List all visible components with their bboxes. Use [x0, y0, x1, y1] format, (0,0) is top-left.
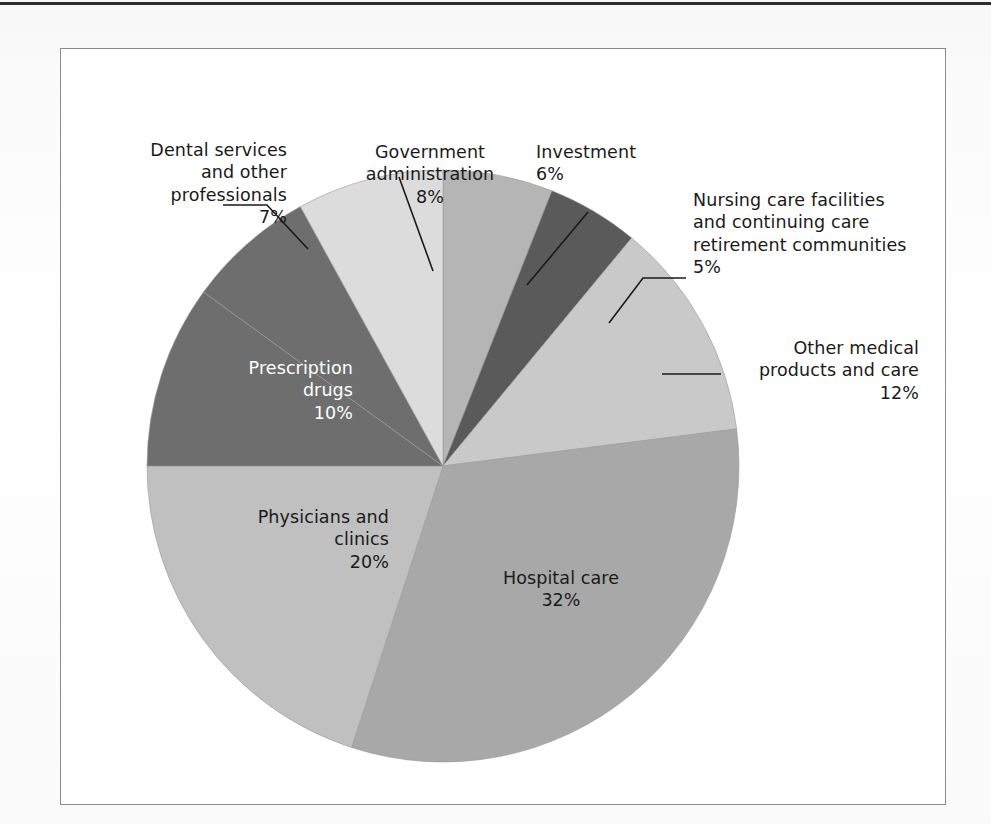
pie-slice-group	[147, 170, 739, 762]
pie-label-dental-services: Dental services and other professionals …	[69, 139, 287, 229]
page-top-rule	[0, 2, 991, 5]
pie-label-government-administration: Government administration 8%	[339, 141, 521, 208]
chart-frame: Government administration 8% Investment …	[60, 48, 946, 805]
pie-label-other-medical: Other medical products and care 12%	[663, 337, 919, 404]
pie-label-nursing-care: Nursing care facilities and continuing c…	[693, 189, 941, 279]
pie-label-prescription-drugs: Prescription drugs 10%	[171, 357, 353, 424]
pie-label-investment: Investment 6%	[536, 141, 706, 186]
figure-page: Government administration 8% Investment …	[0, 0, 991, 824]
pie-label-hospital-care: Hospital care 32%	[461, 567, 661, 612]
pie-label-physicians-clinics: Physicians and clinics 20%	[183, 506, 389, 573]
pie-chart: Government administration 8% Investment …	[61, 49, 945, 804]
